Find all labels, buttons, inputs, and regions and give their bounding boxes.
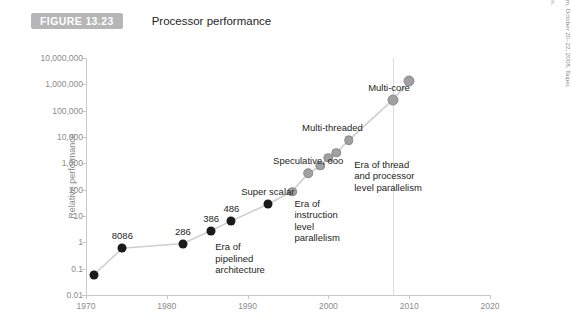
data-point [388, 94, 399, 105]
source-credit: Intel education, 2008 Asia Academic Foru… [549, 0, 572, 96]
point-label: 486 [224, 203, 240, 214]
data-point [303, 169, 313, 179]
data-point [227, 216, 236, 225]
data-point [90, 270, 99, 279]
y-tick-label: 100,000 [52, 106, 83, 116]
data-point [118, 244, 127, 253]
x-tick-mark [167, 295, 168, 299]
y-tick-label: 10,000 [57, 132, 83, 142]
data-point [178, 239, 187, 248]
x-tick-label: 2000 [319, 301, 338, 311]
y-tick-label: 10,000,000 [40, 53, 83, 63]
x-axis-line [86, 295, 490, 296]
x-tick-label: 1990 [238, 301, 257, 311]
figure-number-badge: FIGURE 13.23 [31, 13, 123, 30]
point-label: 386 [203, 213, 219, 224]
figure-caption: FIGURE 13.23 Processor performance [31, 12, 271, 30]
x-tick-label: 1980 [157, 301, 176, 311]
chart-plot-area: Relative performance 10,000,0001,000,000… [86, 58, 490, 295]
point-label: 286 [175, 226, 191, 237]
data-point [207, 226, 216, 235]
era-annotation: Era of instruction level parallelism [294, 198, 339, 244]
x-tick-label: 2010 [400, 301, 419, 311]
x-tick-mark [490, 295, 491, 299]
point-label: Super scalar [241, 186, 294, 197]
y-tick-label: 1 [78, 237, 83, 247]
data-point [344, 136, 354, 146]
y-axis-title: Relative performance [67, 133, 77, 219]
point-label: 8086 [112, 230, 133, 241]
point-label: Multi-core [368, 82, 410, 93]
y-tick-label: 0.1 [71, 264, 83, 274]
x-tick-mark [248, 295, 249, 299]
data-point [263, 200, 272, 209]
y-tick-label: 10 [74, 211, 83, 221]
y-tick-label: 100 [69, 185, 83, 195]
era-annotation: Era of thread and processor level parall… [354, 159, 422, 194]
credit-line-1: Intel education, 2008 Asia Academic Foru… [557, 0, 572, 96]
y-tick-label: 1,000 [62, 158, 83, 168]
x-tick-mark [409, 295, 410, 299]
x-tick-mark [328, 295, 329, 299]
y-tick-label: 1,000,000 [45, 79, 83, 89]
point-label: Multi-threaded [302, 122, 363, 133]
figure-title: Processor performance [152, 15, 272, 27]
credit-line-2: printed with permission of Intel Corpora… [549, 0, 557, 96]
era-annotation: Era of pipelined architecture [215, 241, 265, 276]
trend-line [86, 58, 490, 295]
point-label: Speculative, ooo [273, 155, 343, 166]
y-tick-label: 0.01 [66, 290, 83, 300]
x-tick-label: 2020 [481, 301, 500, 311]
x-tick-mark [86, 295, 87, 299]
x-tick-label: 1970 [77, 301, 96, 311]
